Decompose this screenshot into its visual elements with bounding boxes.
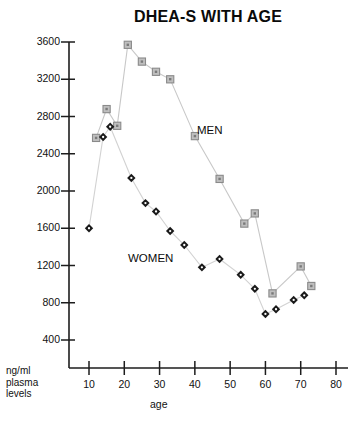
- data-point-women: [127, 174, 135, 182]
- y-axis-tick-label: 1200: [10, 259, 60, 271]
- data-point-men: [241, 220, 248, 227]
- y-axis-tick-label: 3600: [10, 35, 60, 47]
- x-axis-label: age: [150, 398, 168, 410]
- y-axis-tick-label: 2800: [10, 110, 60, 122]
- y-axis-tick-label: 400: [10, 333, 60, 345]
- data-point-men: [124, 41, 131, 48]
- y-axis-tick-label: 800: [10, 296, 60, 308]
- data-point-men: [216, 175, 223, 182]
- series-annotation-women: WOMEN: [128, 252, 173, 264]
- data-point-men: [152, 68, 159, 75]
- data-point-women: [261, 310, 269, 318]
- x-axis-tick-label: 10: [73, 378, 105, 390]
- y-axis-caption-line3: levels: [6, 388, 62, 400]
- data-point-men: [167, 76, 174, 83]
- data-point-men: [308, 282, 315, 289]
- x-axis-tick-label: 40: [179, 378, 211, 390]
- x-axis-tick-label: 60: [249, 378, 281, 390]
- data-point-men: [251, 210, 258, 217]
- y-axis-tick-label: 2000: [10, 184, 60, 196]
- x-axis-tick-label: 50: [214, 378, 246, 390]
- data-point-women: [85, 224, 93, 232]
- data-point-women: [272, 305, 280, 313]
- data-point-women: [215, 255, 223, 263]
- y-axis-tick-label: 2400: [10, 147, 60, 159]
- x-axis-tick-label: 80: [320, 378, 352, 390]
- data-point-men: [93, 134, 100, 141]
- data-point-men: [269, 290, 276, 297]
- x-axis-tick-label: 70: [285, 378, 317, 390]
- data-point-men: [114, 122, 121, 129]
- series-line-women: [89, 127, 304, 314]
- series-annotation-men: MEN: [197, 124, 223, 136]
- y-axis-caption-line1: ng/ml: [6, 365, 62, 377]
- data-point-women: [289, 296, 297, 304]
- x-axis-tick-label: 30: [144, 378, 176, 390]
- data-point-women: [300, 291, 308, 299]
- chart-container: DHEA-S WITH AGE ng/ml plasma levels age …: [0, 0, 358, 429]
- data-point-men: [138, 58, 145, 65]
- data-point-men: [103, 106, 110, 113]
- x-axis-tick-label: 20: [108, 378, 140, 390]
- y-axis-caption: ng/ml plasma levels: [6, 365, 62, 400]
- y-axis-tick-label: 1600: [10, 221, 60, 233]
- y-axis-caption-line2: plasma: [6, 377, 62, 389]
- data-point-men: [297, 263, 304, 270]
- y-axis-tick-label: 3200: [10, 72, 60, 84]
